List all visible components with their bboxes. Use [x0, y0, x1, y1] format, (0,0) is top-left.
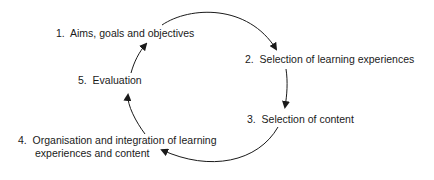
stage-5-number: 5.	[78, 74, 87, 86]
stage-5-text: Evaluation	[93, 74, 142, 86]
stage-2-number: 2.	[245, 53, 254, 65]
stage-1-number: 1.	[56, 27, 65, 39]
stage-3-text: Selection of content	[262, 113, 354, 125]
stage-3-label: 3. Selection of content	[247, 113, 354, 126]
stage-3-number: 3.	[247, 113, 256, 125]
stage-5-label: 5. Evaluation	[78, 74, 142, 87]
arrow-5-to-1	[131, 44, 146, 73]
stage-1-text: Aims, goals and objectives	[70, 27, 194, 39]
stage-4-label: 4. Organisation and integration of learn…	[18, 134, 216, 160]
arrow-4-to-5	[128, 95, 145, 134]
stage-2-label: 2. Selection of learning experiences	[245, 53, 414, 66]
arrow-2-to-3	[285, 69, 287, 107]
stage-2-text: Selection of learning experiences	[260, 53, 415, 65]
stage-4-number: 4.	[18, 134, 27, 146]
stage-1-label: 1. Aims, goals and objectives	[56, 27, 194, 40]
stage-4-text: Organisation and integration of learning	[33, 134, 217, 146]
stage-4-text-line2: experiences and content	[35, 147, 149, 159]
